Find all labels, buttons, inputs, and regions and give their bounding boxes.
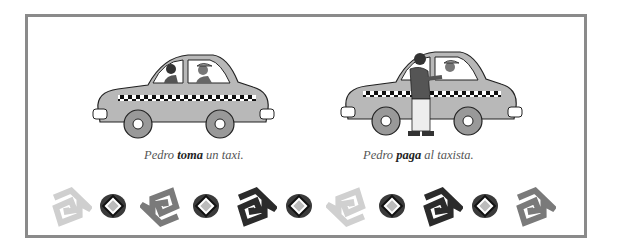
paying-taxi-driver-illustration — [338, 39, 538, 149]
diamond-badge-icon — [284, 191, 314, 221]
spiral-square-icon — [419, 187, 463, 227]
taxi-passenger-illustration — [88, 47, 278, 147]
caption-verb: toma — [177, 148, 203, 162]
caption-verb: paga — [396, 148, 421, 162]
diamond-badge-icon — [377, 191, 407, 221]
caption-paga: Pedro paga al taxista. — [363, 148, 474, 163]
caption-rest: al taxista. — [424, 148, 473, 162]
spiral-square-icon — [48, 187, 92, 227]
diamond-badge-icon — [470, 191, 500, 221]
spiral-square-icon — [233, 187, 277, 227]
diamond-badge-icon — [191, 191, 221, 221]
illustration-frame: Pedro toma un taxi. Pedro — [25, 14, 587, 238]
diamond-badge-icon — [98, 191, 128, 221]
decorative-icon-row — [48, 187, 568, 231]
caption-toma: Pedro toma un taxi. — [144, 148, 244, 163]
spiral-square-icon — [140, 187, 184, 227]
panel-paga: Pedro paga al taxista. — [338, 17, 578, 187]
spiral-square-icon — [512, 187, 556, 227]
caption-rest: un taxi. — [206, 148, 244, 162]
caption-subject: Pedro — [363, 148, 393, 162]
spiral-square-icon — [326, 187, 370, 227]
caption-subject: Pedro — [144, 148, 174, 162]
panel-toma: Pedro toma un taxi. — [88, 17, 328, 187]
